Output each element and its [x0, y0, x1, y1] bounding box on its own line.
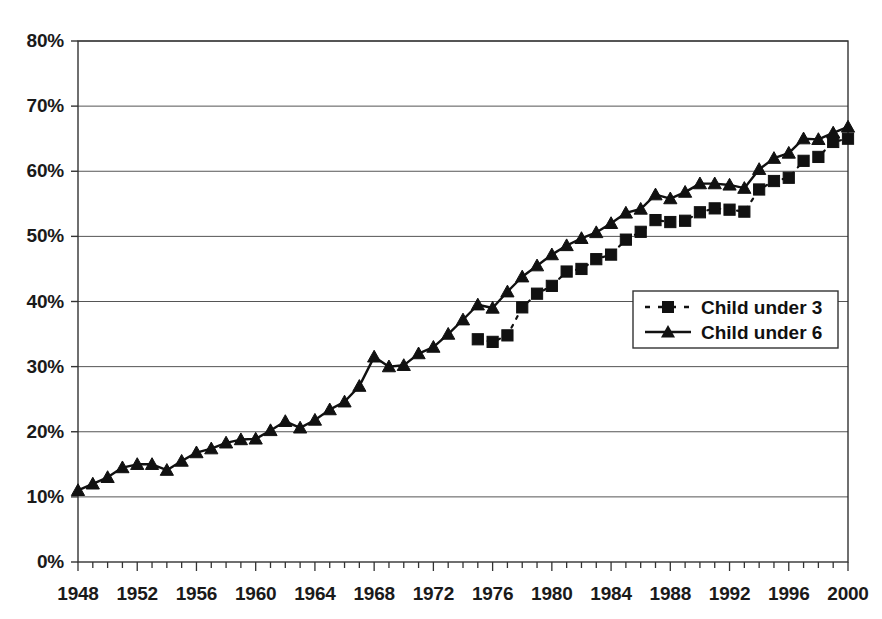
- xtick-label: 1952: [116, 583, 157, 605]
- data-point-marker: [813, 151, 824, 162]
- data-point-marker: [545, 248, 558, 260]
- data-point-marker: [353, 380, 366, 392]
- ytick-label: 40%: [0, 291, 64, 313]
- xtick-label: 1992: [709, 583, 750, 605]
- data-point-marker: [679, 185, 692, 197]
- data-point-marker: [472, 334, 483, 345]
- xtick-label: 1968: [353, 583, 394, 605]
- xtick-label: 1988: [650, 583, 691, 605]
- ytick-label: 30%: [0, 356, 64, 378]
- data-point-marker: [517, 302, 528, 313]
- xtick-label: 1980: [531, 583, 572, 605]
- data-point-marker: [604, 217, 617, 229]
- data-point-marker: [842, 133, 853, 144]
- data-point-marker: [724, 204, 735, 215]
- data-point-marker: [471, 298, 484, 310]
- ytick-label: 60%: [0, 160, 64, 182]
- legend-marker-1: [662, 301, 674, 313]
- data-point-marker: [605, 249, 616, 260]
- data-point-marker: [709, 203, 720, 214]
- ytick-label: 10%: [0, 486, 64, 508]
- data-point-marker: [546, 280, 557, 291]
- chart-canvas: Child under 3Child under 6: [0, 0, 882, 619]
- data-point-marker: [308, 413, 321, 425]
- data-point-marker: [561, 266, 572, 277]
- data-point-marker: [680, 215, 691, 226]
- data-point-marker: [739, 206, 750, 217]
- data-point-marker: [502, 330, 513, 341]
- data-point-marker: [175, 454, 188, 466]
- xtick-label: 1960: [235, 583, 276, 605]
- data-point-marker: [783, 172, 794, 183]
- legend-label-1: Child under 3: [701, 297, 822, 318]
- data-point-marker: [798, 155, 809, 166]
- data-point-marker: [368, 350, 381, 362]
- data-point-marker: [531, 288, 542, 299]
- legend-label-2: Child under 6: [701, 322, 822, 343]
- data-point-marker: [650, 214, 661, 225]
- xtick-label: 1976: [472, 583, 513, 605]
- ytick-label: 50%: [0, 225, 64, 247]
- data-point-marker: [487, 336, 498, 347]
- ytick-label: 80%: [0, 30, 64, 52]
- data-point-marker: [754, 184, 765, 195]
- xtick-label: 1996: [768, 583, 809, 605]
- data-point-marker: [841, 120, 854, 132]
- data-point-marker: [591, 254, 602, 265]
- data-point-marker: [620, 234, 631, 245]
- data-point-marker: [264, 424, 277, 436]
- data-point-marker: [576, 263, 587, 274]
- ytick-label: 0%: [0, 551, 64, 573]
- line-chart: Child under 3Child under 6 0%10%20%30%40…: [0, 0, 882, 619]
- xtick-label: 1964: [294, 583, 335, 605]
- data-point-marker: [323, 403, 336, 415]
- data-point-marker: [665, 216, 676, 227]
- ytick-label: 20%: [0, 421, 64, 443]
- data-point-marker: [560, 239, 573, 251]
- xtick-label: 1984: [590, 583, 631, 605]
- xtick-label: 1972: [413, 583, 454, 605]
- data-point-marker: [101, 471, 114, 483]
- xtick-label: 1948: [57, 583, 98, 605]
- xtick-label: 1956: [176, 583, 217, 605]
- data-point-marker: [635, 226, 646, 237]
- ytick-label: 70%: [0, 95, 64, 117]
- data-point-marker: [590, 226, 603, 238]
- xtick-label: 2000: [827, 583, 868, 605]
- data-point-marker: [279, 415, 292, 427]
- data-point-marker: [768, 175, 779, 186]
- data-point-marker: [649, 188, 662, 200]
- data-point-marker: [694, 207, 705, 218]
